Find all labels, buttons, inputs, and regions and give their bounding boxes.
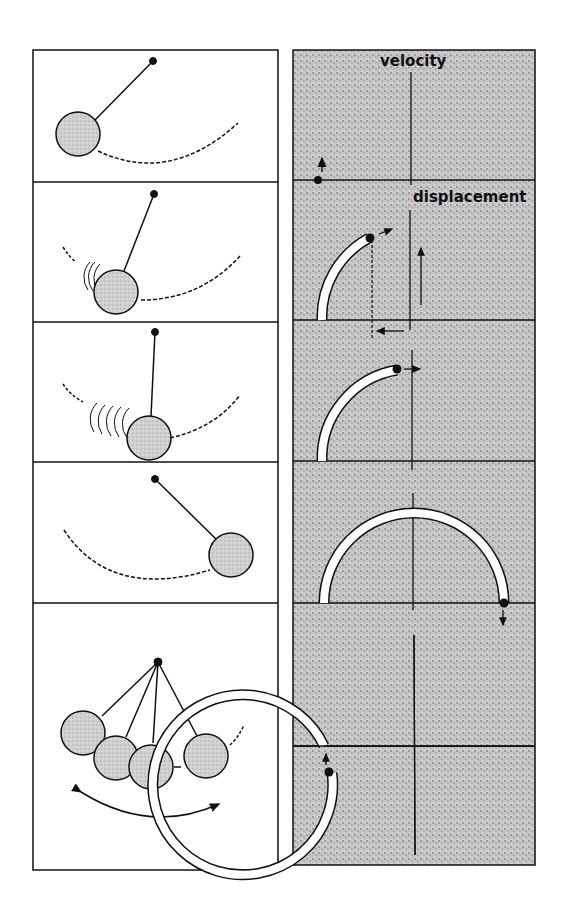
pivot-icon: [150, 58, 157, 65]
displacement-axis-label: displacement: [413, 188, 527, 206]
bob-icon: [94, 270, 138, 314]
pendulum-diagram: velocity displacement: [0, 0, 567, 917]
state-point-icon: [314, 176, 322, 184]
bob-icon: [209, 533, 253, 577]
bob-icon: [127, 416, 171, 460]
bob-icon: [56, 112, 100, 156]
velocity-axis-label: velocity: [380, 52, 447, 70]
